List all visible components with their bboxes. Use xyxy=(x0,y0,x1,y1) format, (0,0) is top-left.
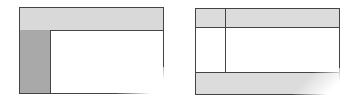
header-region xyxy=(196,9,339,28)
layout-diagram-1 xyxy=(19,7,164,94)
sidebar-region xyxy=(196,28,225,73)
sidebar-divider xyxy=(225,9,226,74)
header-region xyxy=(20,8,163,31)
layout-diagram-2 xyxy=(195,8,340,95)
fade-overlay xyxy=(293,68,343,98)
fade-overlay xyxy=(117,67,167,97)
content-region xyxy=(227,28,339,73)
sidebar-region xyxy=(20,30,51,93)
